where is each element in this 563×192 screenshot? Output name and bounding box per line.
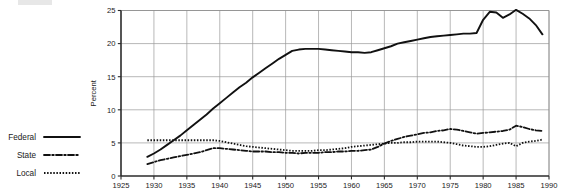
y-tick-label: 0 (111, 172, 115, 181)
x-tick-label: 1925 (113, 181, 130, 190)
line-chart: 0510152025 19251930193519401945195019551… (0, 0, 563, 192)
y-axis-title: Percent (89, 79, 98, 106)
x-tick-label: 1990 (541, 181, 558, 190)
x-tick-label: 1950 (277, 181, 294, 190)
legend-label-local: Local (16, 169, 36, 178)
y-axis-title-text: Percent (89, 79, 98, 106)
x-tick-label: 1935 (178, 181, 195, 190)
x-tick-label: 1955 (310, 181, 327, 190)
legend-label-federal: Federal (8, 133, 36, 142)
y-tick-label: 15 (107, 73, 115, 82)
chart-figure: 0510152025 19251930193519401945195019551… (0, 0, 563, 192)
x-tick-label: 1960 (343, 181, 360, 190)
x-tick-label: 1980 (475, 181, 492, 190)
y-tick-label: 5 (111, 139, 115, 148)
scan-artifact (18, 0, 52, 5)
x-tick-label: 1965 (376, 181, 393, 190)
x-tick-label: 1975 (442, 181, 459, 190)
legend-label-state: State (17, 151, 37, 160)
x-tick-label: 1940 (211, 181, 228, 190)
x-tick-label: 1945 (244, 181, 261, 190)
y-tick-label: 25 (107, 6, 115, 15)
y-tick-label: 20 (107, 39, 115, 48)
x-tick-label: 1970 (409, 181, 426, 190)
x-tick-label: 1985 (508, 181, 525, 190)
y-tick-label: 10 (107, 106, 115, 115)
x-tick-label: 1930 (145, 181, 162, 190)
